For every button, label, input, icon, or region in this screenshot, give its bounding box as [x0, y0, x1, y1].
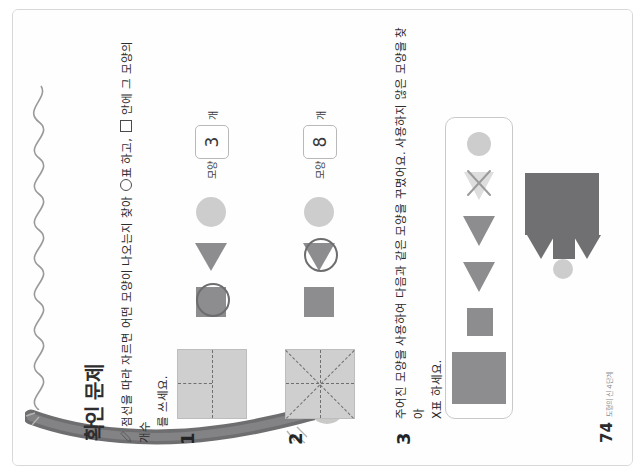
palette-large-square[interactable]: [452, 352, 506, 404]
problem-1-folded-square: [177, 349, 247, 419]
problem-1-option-triangle[interactable]: [195, 243, 227, 271]
problem-2-options: 모양: [303, 161, 335, 317]
problem-1-number: 1: [177, 432, 198, 445]
problem-2-number: 2: [285, 432, 306, 445]
house-roof-triangle-top: [527, 235, 555, 259]
house-window-square: [553, 235, 575, 259]
selection-circle-icon: [304, 238, 338, 272]
palette-circle[interactable]: [467, 132, 491, 156]
problem-1-answer-unit: 개: [205, 111, 220, 120]
problem-1-option-square[interactable]: [196, 287, 226, 317]
page-footer-label: 도형의 신 4단계: [604, 372, 616, 417]
problem-3-line1: 주어진 모양을 사용하여 다음과 같은 모양을 꾸몄어요. 사용하지 않은 모양…: [394, 27, 426, 419]
house-figure: [519, 165, 607, 275]
problem-1-option-caption: 모양: [204, 161, 219, 179]
problem-2-answer-unit: 개: [313, 111, 328, 120]
page-number: 74: [598, 422, 616, 443]
photographed-page: 확인 문제 점선을 따라 자르면 어떤 모양이 나오는지 찾아 표 하고, 안에…: [0, 0, 643, 473]
problem-2-option-circle[interactable]: [304, 197, 334, 227]
page-title: 확인 문제: [83, 365, 107, 441]
rotated-content-wrapper: 확인 문제 점선을 따라 자르면 어떤 모양이 나오는지 찾아 표 하고, 안에…: [13, 10, 632, 465]
problem-1-body: [177, 349, 247, 419]
problem-3-line2: X표 하세요.: [430, 360, 444, 419]
problem-2-answer-box[interactable]: 8: [303, 125, 337, 159]
problem-2-option-square[interactable]: [304, 287, 334, 317]
squiggle-line-icon: [19, 80, 59, 410]
instruction-block: 점선을 따라 자르면 어떤 모양이 나오는지 찾아 표 하고, 안에 그 모양의…: [119, 33, 172, 443]
problem-2-option-triangle[interactable]: [303, 243, 335, 271]
worksheet-page: 확인 문제 점선을 따라 자르면 어떤 모양이 나오는지 찾아 표 하고, 안에…: [12, 9, 633, 466]
page-footer: 74 도형의 신 4단계: [598, 372, 616, 443]
problem-1-answer-group: 3 개: [195, 111, 229, 159]
problem-2-folded-square: [285, 349, 355, 419]
house-body-rectangle: [525, 173, 599, 235]
palette-triangle-2[interactable]: [463, 216, 495, 246]
problem-1-options: 모양: [195, 161, 227, 317]
circle-mark-icon: [120, 179, 132, 191]
x-mark-icon: [464, 168, 494, 198]
problem-1-option-circle[interactable]: [196, 197, 226, 227]
problem-1-answer-box[interactable]: 3: [195, 125, 229, 159]
instruction-line1-b: 표 하고,: [120, 134, 134, 178]
problem-3-text: 주어진 모양을 사용하여 다음과 같은 모양을 꾸몄어요. 사용하지 않은 모양…: [393, 24, 446, 419]
worksheet-sheet: 확인 문제 점선을 따라 자르면 어떤 모양이 나오는지 찾아 표 하고, 안에…: [13, 10, 632, 465]
selection-circle-icon: [196, 283, 230, 317]
palette-triangle-1[interactable]: [463, 262, 495, 292]
problem-3-shape-panel: [445, 117, 513, 419]
instruction-line2: 를 쓰세요.: [155, 33, 173, 427]
problem-2-body: [285, 349, 355, 419]
palette-small-square[interactable]: [467, 308, 493, 336]
problem-2-answer-group: 8 개: [303, 111, 337, 159]
answer-box-icon: [120, 120, 132, 132]
page-title-row: 확인 문제: [79, 365, 108, 441]
pencil-icon: [120, 430, 133, 443]
house-roof-triangle-bottom: [573, 235, 601, 259]
problem-3-number: 3: [393, 432, 414, 445]
instruction-line1-a: 점선을 따라 자르면 어떤 모양이 나오는지 찾아: [120, 192, 134, 427]
problem-2-option-caption: 모양: [312, 161, 327, 179]
house-sun-circle: [553, 259, 573, 279]
